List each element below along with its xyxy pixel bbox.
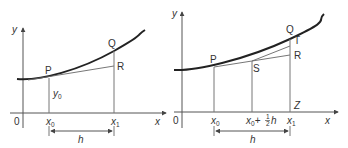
tick-x1-label: x1	[286, 115, 296, 127]
diagram-canvas: y 0 x P Q R y0 x0 x1 h y 0 x P Q T R S Z…	[0, 0, 348, 148]
fraction-h-label: h	[271, 115, 277, 126]
origin-label: 0	[173, 115, 179, 126]
tangent-line-pr	[28, 66, 114, 80]
point-p-label: P	[210, 54, 217, 65]
origin-label: 0	[14, 116, 20, 127]
point-r-label: R	[294, 50, 301, 61]
right-diagram: y 0 x P Q T R S Z x0 x0+ 1 2 h x1 h	[171, 8, 338, 145]
tick-x0-label: x0	[45, 116, 55, 128]
fraction-numerator: 1	[266, 113, 270, 120]
curve	[17, 30, 145, 79]
point-q-label: Q	[286, 24, 294, 35]
fraction-denominator: 2	[266, 120, 270, 127]
x-axis-label: x	[324, 115, 331, 126]
point-p-label: P	[45, 65, 52, 76]
point-s-label: S	[253, 63, 260, 74]
y-axis-label: y	[171, 8, 178, 19]
ordinate-y0-label: y0	[52, 88, 62, 100]
left-diagram: y 0 x P Q R y0 x0 x1 h	[10, 24, 166, 145]
x-axis-label: x	[154, 116, 161, 127]
point-r-label: R	[117, 61, 124, 72]
y-axis-label: y	[11, 24, 18, 35]
tick-midpoint-label: x0+	[245, 115, 261, 127]
interval-h-label: h	[78, 134, 84, 145]
interval-h-label: h	[250, 134, 256, 145]
point-z-label: Z	[293, 100, 301, 111]
tick-x0-label: x0	[210, 115, 220, 127]
tick-x1-label: x1	[110, 116, 120, 128]
point-t-label: T	[294, 35, 300, 46]
point-q-label: Q	[108, 38, 116, 49]
